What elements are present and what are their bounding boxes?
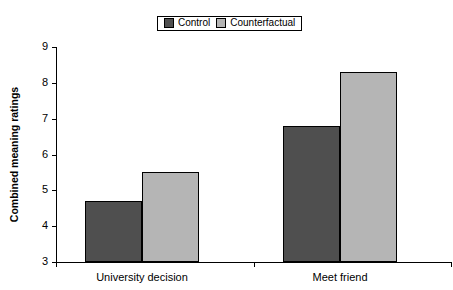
y-axis-tick-label: 4 (42, 219, 48, 232)
x-axis-tick (451, 262, 452, 267)
legend-entry-counterfactual: Counterfactual (216, 18, 295, 28)
y-axis-tick-label: 7 (42, 112, 48, 125)
x-axis-category-label: Meet friend (312, 271, 367, 283)
bar-control-1 (283, 126, 340, 262)
x-axis-tick (56, 262, 57, 267)
plot-area: 3456789 University decisionMeet friend (56, 47, 451, 262)
y-axis-tick: 9 (52, 47, 56, 48)
bar-counterfactual-0 (142, 172, 199, 262)
y-axis-tick: 6 (52, 155, 56, 156)
y-axis-tick-label: 8 (42, 76, 48, 89)
y-axis-tick-label: 9 (42, 40, 48, 53)
legend-label-control: Control (178, 18, 210, 28)
legend-swatch-counterfactual (216, 18, 226, 28)
y-axis-tick: 5 (52, 190, 56, 191)
legend-swatch-control (164, 18, 174, 28)
bar-control-0 (85, 201, 142, 262)
y-axis-tick: 8 (52, 83, 56, 84)
bar-counterfactual-1 (340, 72, 397, 262)
y-axis-line (56, 47, 57, 262)
y-axis-tick: 4 (52, 226, 56, 227)
legend-label-counterfactual: Counterfactual (230, 18, 295, 28)
legend-entry-control: Control (164, 18, 210, 28)
x-axis-category-label: University decision (96, 271, 188, 283)
chart-legend: Control Counterfactual (157, 16, 302, 31)
y-axis-title: Combined meaning ratings (8, 47, 21, 262)
y-axis-tick: 7 (52, 119, 56, 120)
y-axis-tick-label: 3 (42, 255, 48, 268)
x-axis-tick (254, 262, 255, 267)
y-axis-tick-label: 6 (42, 148, 48, 161)
y-axis-tick-label: 5 (42, 183, 48, 196)
